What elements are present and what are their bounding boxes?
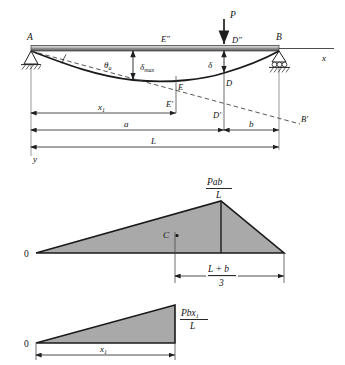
moment-peak-denominator: L: [215, 190, 221, 200]
beam-member: [31, 46, 279, 52]
x-axis-label: x: [321, 53, 326, 63]
support-label-B: B: [276, 32, 282, 42]
dimension-label-x1: x1: [97, 102, 105, 113]
dimension-label-L: L: [150, 136, 156, 146]
elastic-curve: [31, 51, 279, 81]
centroid-dimension-numerator: L + b: [207, 264, 229, 274]
moment-peak-value: Pab L: [206, 177, 232, 200]
moment-origin-label: 0: [24, 249, 29, 259]
deflection-label-delta: δ: [208, 60, 213, 70]
dimension-L: L: [31, 136, 279, 147]
partial-origin-label: 0: [24, 339, 29, 349]
partial-moment-panel: 0 Pbx1 L x1: [24, 305, 208, 360]
dimension-b: b: [224, 119, 279, 130]
point-label-E-double-prime: E″: [160, 34, 170, 44]
beam-deflection-and-moment-figure: x y A: [0, 0, 345, 365]
point-label-B-prime: B′: [301, 114, 308, 124]
dimension-label-b: b: [249, 119, 254, 129]
beam-deflection-panel: x y A: [21, 10, 334, 164]
dimension-x1: x1: [31, 102, 176, 113]
moment-area-triangle: [36, 201, 284, 253]
load-label-P: P: [229, 10, 236, 20]
partial-peak-denominator: L: [189, 321, 195, 331]
partial-dimension-label-x1: x1: [99, 344, 107, 355]
bending-moment-panel: 0 Pab L C L + b 3: [24, 177, 284, 288]
point-label-D-prime: D′: [212, 110, 221, 120]
point-label-D-double-prime: D″: [231, 35, 242, 45]
support-label-A: A: [26, 32, 33, 42]
moment-centroid-label: C: [163, 230, 170, 240]
centroid-dimension-denominator: 3: [218, 278, 224, 288]
point-label-E: E: [177, 82, 184, 92]
centroid-dimension: L + b 3: [175, 264, 284, 288]
deflection-label-delta-max: δmax: [140, 62, 155, 73]
angle-arc-theta-a: [62, 55, 66, 64]
point-label-E-prime: E′: [165, 99, 173, 109]
dimension-label-a: a: [124, 119, 129, 129]
partial-peak-numerator: Pbx1: [180, 308, 199, 319]
dimension-a: a: [31, 119, 224, 130]
partial-moment-triangle: [36, 305, 175, 343]
point-label-D: D: [225, 78, 233, 88]
partial-dimension-x1: x1: [36, 344, 175, 355]
partial-peak-value: Pbx1 L: [180, 308, 208, 331]
moment-centroid-dot: [175, 234, 178, 237]
angle-label-theta-a: θa: [104, 60, 111, 71]
moment-peak-numerator: Pab: [206, 177, 223, 187]
y-axis-label: y: [32, 154, 37, 164]
